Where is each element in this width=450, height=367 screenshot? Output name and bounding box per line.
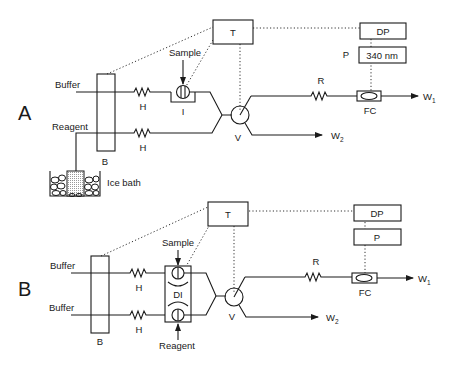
- thermostat-bath: [91, 256, 109, 333]
- panel-a-label: A: [18, 102, 32, 124]
- waste2-line: [239, 305, 318, 317]
- buffer-2-heating-coil: [71, 311, 170, 319]
- wavelength-label: 340 nm: [366, 50, 398, 61]
- input-buffer-label: Buffer: [55, 79, 80, 90]
- control-line-bath: [101, 207, 208, 256]
- fia-diagram: A T DP 340 nm P Buffer H Reagent H B I: [0, 0, 450, 367]
- waste1-label: W1: [418, 273, 431, 286]
- controller-label: T: [230, 27, 236, 38]
- reactor-label: R: [313, 256, 320, 267]
- input-reagent-label: Reagent: [52, 121, 88, 132]
- heating-coil-label-bottom: H: [136, 324, 143, 335]
- injector-label: I: [182, 106, 185, 117]
- input-buffer-1-label: Buffer: [50, 260, 75, 271]
- heating-coil-label-top: H: [140, 101, 147, 112]
- ice-bath-label: Ice bath: [107, 177, 141, 188]
- reactor-line: [245, 273, 352, 281]
- heating-coil-label-top: H: [136, 282, 143, 293]
- waste2-line: [245, 123, 322, 135]
- controller-label: T: [225, 209, 231, 220]
- reactor-line: [251, 92, 357, 100]
- sample-label: Sample: [162, 237, 194, 248]
- photometer-label: P: [343, 49, 349, 60]
- injector-valve: [177, 86, 190, 99]
- heating-coil-label-bottom: H: [140, 142, 147, 153]
- detector-label: DP: [376, 26, 389, 37]
- panel-b: B T DP P Buffer H Buffer H B: [18, 202, 431, 351]
- reactor-label: R: [318, 75, 325, 86]
- buffer-line-heating-coil: [76, 88, 171, 96]
- buffer-1-heating-coil: [71, 269, 170, 277]
- valve-label: V: [229, 311, 236, 322]
- control-line-injector: [184, 226, 209, 270]
- panel-b-label: B: [18, 278, 31, 300]
- injector-label: DI: [173, 289, 183, 300]
- panel-a: A T DP 340 nm P Buffer H Reagent H B I: [18, 20, 436, 197]
- thermostat-bath: [97, 74, 115, 151]
- input-buffer-2-label: Buffer: [49, 302, 74, 313]
- bath-label: B: [97, 336, 103, 347]
- sample-label: Sample: [169, 47, 201, 58]
- waste2-label: W2: [331, 130, 344, 143]
- bath-label: B: [102, 156, 108, 167]
- waste2-label: W2: [326, 312, 339, 325]
- valve-label: V: [235, 132, 242, 143]
- waste1-label: W1: [423, 91, 436, 104]
- reagent-label: Reagent: [159, 340, 195, 351]
- detector-label: DP: [370, 208, 383, 219]
- photometer-label: P: [374, 232, 380, 243]
- flow-cell-label: FC: [359, 287, 372, 298]
- reagent-line-heating-coil: [76, 115, 222, 175]
- ice-bath: [50, 171, 100, 197]
- flow-cell-label: FC: [364, 105, 377, 116]
